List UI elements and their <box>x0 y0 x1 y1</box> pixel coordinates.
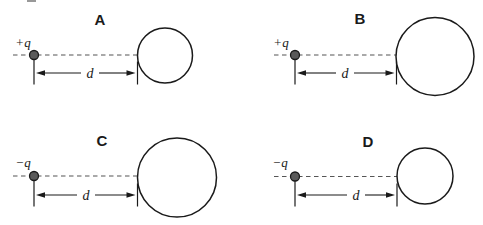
charge-label: −q <box>272 155 288 170</box>
charge-dot <box>30 172 39 181</box>
sphere <box>396 18 474 96</box>
charge-label: +q <box>273 35 289 50</box>
dimension-arrow-left-icon <box>36 192 45 198</box>
charge-dot <box>291 172 300 181</box>
figure-canvas: A+qdB+qdC−qdD−qd <box>0 0 483 225</box>
physics-figure: A+qdB+qdC−qdD−qd <box>0 0 483 225</box>
charge-label: +q <box>15 35 31 50</box>
distance-label: d <box>83 188 91 203</box>
dimension-arrow-right-icon <box>127 70 136 76</box>
panel-D: D−qd <box>272 133 453 207</box>
dimension-arrow-right-icon <box>386 192 395 198</box>
distance-label: d <box>353 188 361 203</box>
charge-dot <box>291 51 300 60</box>
dimension-arrow-left-icon <box>36 70 45 76</box>
panel-label: B <box>355 10 366 27</box>
dimension-arrow-left-icon <box>297 70 306 76</box>
distance-label: d <box>87 66 95 81</box>
dimension-arrow-right-icon <box>386 70 395 76</box>
panel-C: C−qd <box>13 132 217 217</box>
distance-label: d <box>342 66 350 81</box>
panel-label: A <box>95 11 106 28</box>
scan-artifact <box>27 0 36 2</box>
dimension-arrow-right-icon <box>127 192 136 198</box>
panel-label: D <box>363 133 374 150</box>
sphere <box>138 28 193 83</box>
panel-label: C <box>97 132 108 149</box>
panel-A: A+qd <box>13 11 193 85</box>
sphere <box>397 148 453 204</box>
charge-dot <box>30 51 39 60</box>
sphere <box>138 138 217 217</box>
dimension-arrow-left-icon <box>297 192 306 198</box>
panel-B: B+qd <box>273 10 474 96</box>
charge-label: −q <box>15 155 31 170</box>
